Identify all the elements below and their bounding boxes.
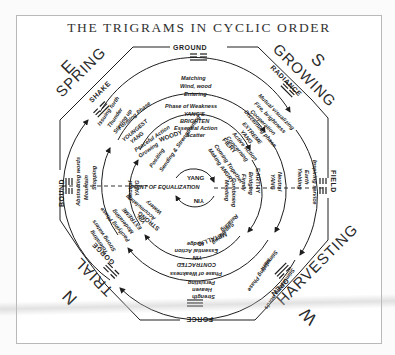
trigram-field: FIELD (330, 170, 337, 193)
svg-text:Mountain: Mountain (83, 175, 89, 200)
svg-text:Persisting: Persisting (187, 280, 215, 286)
svg-text:Stopping: Stopping (91, 165, 97, 190)
svg-text:Meeting: Meeting (224, 180, 230, 202)
svg-text:Matching: Matching (181, 75, 206, 81)
center-yin: YIN (193, 198, 204, 205)
svg-text:Phase of Weakness: Phase of Weakness (165, 103, 217, 109)
center: YANG YIN POINT OF EQUALIZATION (130, 174, 204, 205)
trigram-ground-symbol (190, 54, 207, 60)
trigram-field-symbol (320, 178, 326, 194)
svg-text:Inspiring service: Inspiring service (312, 160, 318, 204)
svg-text:Heaven: Heaven (192, 287, 212, 293)
svg-text:Bridging: Bridging (248, 172, 254, 196)
svg-text:Stimulating Phase: Stimulating Phase (246, 249, 279, 292)
page: THE TRIGRAMS IN CYCLIC ORDER (0, 0, 395, 355)
trigram-force: FORCE (186, 316, 213, 323)
svg-text:Abstracting words: Abstracting words (75, 157, 81, 207)
point-of-equalization: POINT OF EQUALIZATION (130, 184, 200, 190)
svg-text:Essential Action: Essential Action (174, 248, 218, 254)
svg-text:EARTHY: EARTHY (255, 168, 262, 194)
center-yang: YANG (187, 174, 204, 181)
trigram-bound: BOUND (58, 179, 65, 207)
svg-text:YIN: YIN (192, 255, 202, 261)
svg-text:Earth: Earth (304, 170, 310, 185)
svg-text:Phase of Weakness: Phase of Weakness (170, 271, 222, 277)
svg-text:Yielding: Yielding (297, 168, 303, 190)
svg-text:Entering: Entering (184, 91, 207, 97)
svg-text:Combining: Combining (231, 178, 237, 208)
svg-text:CONTRACTED: CONTRACTED (177, 262, 216, 268)
svg-text:Neutral: Neutral (277, 172, 283, 192)
svg-text:Wind, wood: Wind, wood (180, 83, 212, 89)
svg-text:Firmly: Firmly (241, 174, 247, 192)
svg-text:YANG: YANG (270, 174, 276, 190)
trigram-ground: GROUND (173, 44, 207, 51)
